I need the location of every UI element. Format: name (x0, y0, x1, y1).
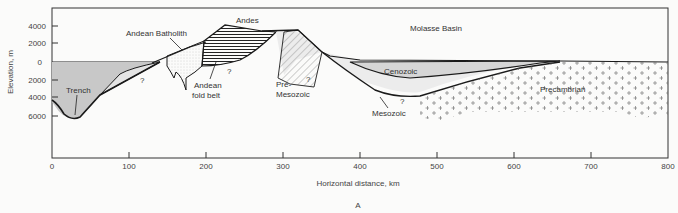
label-mesozoic: Mesozoic (372, 109, 406, 118)
x-tick-300: 300 (276, 162, 290, 171)
label-pre-mesozoic-1: Pre- (276, 80, 291, 89)
label-fold-belt-2: fold belt (192, 91, 221, 100)
label-molasse-basin: Molasse Basin (410, 24, 462, 33)
cross-section-diagram: 4000 2000 0 2000 4000 6000 Elevation, m … (0, 0, 678, 213)
uncertainty-mark: ? (400, 97, 405, 106)
label-fold-belt-1: Andean (194, 81, 222, 90)
y-tick-6000-down: 6000 (28, 112, 46, 121)
x-tick-700: 700 (584, 162, 598, 171)
label-andean-batholith: Andean Batholith (126, 29, 187, 38)
y-tick-4000-down: 4000 (28, 93, 46, 102)
label-trench: Trench (66, 86, 91, 95)
x-tick-600: 600 (507, 162, 521, 171)
label-andes: Andes (236, 16, 259, 25)
pre-mesozoic-body (278, 30, 322, 87)
basin-top-line (322, 52, 668, 62)
uncertainty-mark: ? (306, 75, 311, 84)
uncertainty-mark: ? (227, 67, 232, 76)
label-precambrian: Precambrian (540, 85, 585, 94)
label-cenozoic: Cenozoic (384, 67, 417, 76)
x-tick-100: 100 (122, 162, 136, 171)
x-tick-0: 0 (50, 162, 55, 171)
label-pre-mesozoic-2: Mesozoic (276, 90, 310, 99)
x-axis-label: Horizontal distance, km (316, 179, 399, 188)
x-tick-200: 200 (199, 162, 213, 171)
batholith-pointer (170, 38, 182, 50)
y-tick-0: 0 (38, 58, 43, 67)
x-tick-400: 400 (353, 162, 367, 171)
y-tick-4000-up: 4000 (28, 22, 46, 31)
mesozoic-pointer (380, 97, 388, 108)
y-axis-label: Elevation, m (6, 50, 15, 94)
uncertainty-mark: ? (140, 76, 145, 85)
panel-label: A (355, 201, 361, 210)
y-tick-2000-down: 2000 (28, 76, 46, 85)
x-tick-500: 500 (430, 162, 444, 171)
y-tick-2000-up: 2000 (28, 39, 46, 48)
x-tick-800: 800 (661, 162, 675, 171)
x-axis-ticks (129, 152, 591, 158)
